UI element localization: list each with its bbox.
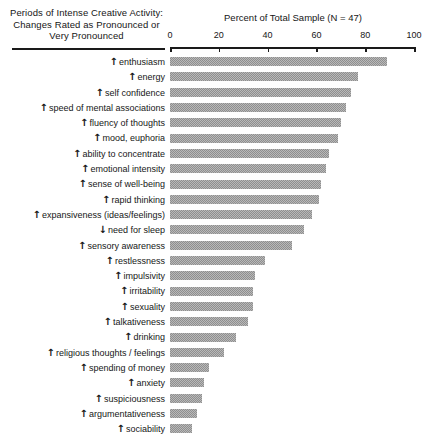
arrow-up-icon: ↑ [104,316,113,327]
x-axis-line [170,47,414,49]
chart-row: ↑ability to concentrate [0,147,432,162]
bar [170,378,204,387]
bar-label-text: emotional intensity [90,164,165,174]
bar-label-text: anxiety [136,378,165,388]
bar-label-text: speed of mental associations [49,103,165,113]
bar-label-text: self confidence [105,88,165,98]
arrow-up-icon: ↑ [80,408,89,419]
bar-label-text: restlessness [115,256,165,266]
bar [170,195,319,204]
bar [170,333,236,342]
x-axis-tick [365,47,367,52]
bar [170,225,304,234]
chart-row: ↑sensory awareness [0,239,432,254]
bar-label-text: talkativeness [113,317,165,327]
bar-label-text: sense of well-being [88,179,165,189]
chart-row: ↑spending of money [0,361,432,376]
arrow-up-icon: ↑ [106,255,115,266]
chart-row: ↑expansiveness (ideas/feelings) [0,208,432,223]
x-axis-tick-label: 0 [167,30,172,40]
arrow-up-icon: ↑ [117,423,126,434]
bar-label: ↓need for sleep [99,224,165,236]
bar-label-text: drinking [133,332,165,342]
bar-label: ↑sensory awareness [78,240,165,252]
bar [170,210,312,219]
bar-label: ↑talkativeness [104,316,165,328]
title-line-1: Periods of Intense Creative Activity: [8,7,165,19]
bar-label: ↑ability to concentrate [73,148,165,160]
bar [170,149,329,158]
bar [170,287,253,296]
arrow-up-icon: ↑ [121,301,130,312]
bar-label: ↑speed of mental associations [40,102,165,114]
bar-label-text: suspiciousness [104,394,165,404]
bar-label: ↑self confidence [96,87,165,99]
x-axis-tick [219,47,221,52]
bar [170,134,338,143]
bar-label: ↑restlessness [106,255,165,267]
title-line-3: Very Pronounced [8,30,165,42]
bar-label: ↑irritability [120,285,165,297]
bar-label-text: ability to concentrate [82,149,165,159]
bar-label-text: sexuality [130,302,165,312]
x-axis-tick-label: 40 [263,30,273,40]
bar [170,317,248,326]
chart-row: ↑talkativeness [0,315,432,330]
chart-row: ↑impulsivity [0,269,432,284]
bar-label: ↑enthusiasm [110,56,165,68]
chart-row: ↑sexuality [0,300,432,315]
bar-label-text: expansiveness (ideas/feelings) [42,210,165,220]
x-axis-tick-label: 60 [311,30,321,40]
bar-label: ↑spending of money [80,362,165,374]
bar-rows: ↑enthusiasm↑energy↑self confidence↑speed… [0,55,432,437]
bar-label: ↑expansiveness (ideas/feelings) [33,209,165,221]
chart-row: ↑argumentativeness [0,407,432,422]
x-axis-tick-label: 20 [214,30,224,40]
bar [170,164,326,173]
chart-row: ↑restlessness [0,254,432,269]
x-axis-tick [268,47,270,52]
chart-row: ↑anxiety [0,376,432,391]
bar-label: ↑sexuality [121,301,165,313]
chart-row: ↑enthusiasm [0,55,432,70]
arrow-up-icon: ↑ [33,209,42,220]
bar [170,180,321,189]
bar [170,424,192,433]
chart-row: ↑rapid thinking [0,193,432,208]
chart-row: ↑fluency of thoughts [0,116,432,131]
bar-label: ↑anxiety [127,377,165,389]
arrow-up-icon: ↑ [96,87,105,98]
chart-row: ↑irritability [0,284,432,299]
bar-label: ↑religious thoughts / feelings [47,347,165,359]
bar-label: ↑drinking [124,331,165,343]
chart-row: ↑sense of well-being [0,177,432,192]
arrow-up-icon: ↑ [110,56,119,67]
bar [170,363,209,372]
bar-label-text: religious thoughts / feelings [56,348,165,358]
arrow-up-icon: ↑ [80,362,89,373]
x-axis: 020406080100 [170,30,414,55]
x-axis-tick [316,47,318,52]
x-axis-tick [170,47,172,52]
x-axis-title: Percent of Total Sample (N = 47) [170,12,416,23]
bar-label-text: impulsivity [123,271,165,281]
bar-label-text: energy [137,72,165,82]
bar-label-text: spending of money [89,363,165,373]
bar-label-text: argumentativeness [89,409,165,419]
bar [170,88,351,97]
bar [170,72,358,81]
x-axis-tick-label: 80 [360,30,370,40]
chart-row: ↓need for sleep [0,223,432,238]
bar-label-text: need for sleep [108,225,165,235]
chart-row: ↑energy [0,70,432,85]
bar [170,409,197,418]
arrow-up-icon: ↑ [95,393,104,404]
bar-label: ↑mood, euphoria [93,132,165,144]
chart-row: ↑speed of mental associations [0,101,432,116]
bar-label-text: sensory awareness [87,241,165,251]
chart-row: ↑drinking [0,330,432,345]
chart-row: ↑mood, euphoria [0,131,432,146]
bar-label-text: irritability [129,286,165,296]
bar [170,394,202,403]
